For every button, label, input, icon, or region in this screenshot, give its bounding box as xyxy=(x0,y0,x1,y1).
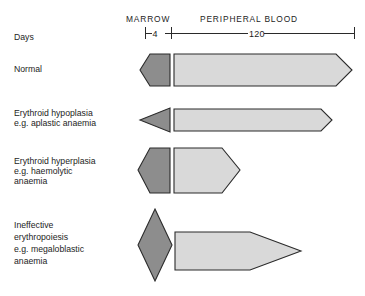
marrow-shape-ineffective-rhombus xyxy=(138,209,172,281)
peripheral-blood-column-label: PERIPHERAL BLOOD xyxy=(200,14,298,24)
marrow-days-value: 4 xyxy=(153,29,158,39)
row-label-hypoplasia-line2: e.g. aplastic anaemia xyxy=(14,118,96,128)
blood-axis-span: 120 xyxy=(172,27,355,39)
blood-shape-normal xyxy=(174,54,352,86)
row-label-hyperplasia-line2: e.g. haemolytic xyxy=(14,166,73,176)
row-label-hyperplasia-line3: anaemia xyxy=(14,176,47,186)
blood-shape-hypoplasia xyxy=(174,109,332,131)
erythropoiesis-diagram: MARROW PERIPHERAL BLOOD Days 4 120 Norma… xyxy=(0,0,365,296)
row-label-hypoplasia-line1: Erythroid hypoplasia xyxy=(14,108,93,118)
row-label-normal-line1: Normal xyxy=(14,64,42,74)
row-label-ineffective-line4: anaemia xyxy=(14,256,47,266)
row-label-ineffective-line2: erythropoiesis xyxy=(14,232,69,242)
blood-days-value: 120 xyxy=(249,29,265,39)
marrow-shape-normal xyxy=(140,54,170,86)
row-label-ineffective-line1: Ineffective xyxy=(14,220,54,230)
row-label-hyperplasia-line1: Erythroid hyperplasia xyxy=(14,156,96,166)
blood-shape-ineffective xyxy=(175,232,301,270)
marrow-axis-span: 4 xyxy=(145,27,172,39)
diagram-canvas: MARROW PERIPHERAL BLOOD Days 4 120 Norma… xyxy=(0,0,365,296)
days-row-label: Days xyxy=(14,32,34,42)
blood-shape-hyperplasia xyxy=(174,148,240,193)
marrow-shape-hyperplasia xyxy=(138,148,170,193)
marrow-shape-hypoplasia xyxy=(140,108,170,132)
row-label-ineffective-line3: e.g. megaloblastic xyxy=(14,244,85,254)
marrow-column-label: MARROW xyxy=(126,14,170,24)
